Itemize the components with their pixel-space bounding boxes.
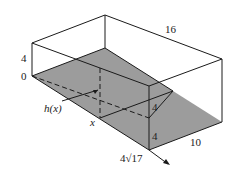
label-left-height: 4 [21, 52, 27, 64]
label-top-length: 16 [165, 23, 177, 35]
label-right-width: 10 [190, 136, 202, 148]
label-diagonal-length: 4√17 [120, 152, 143, 164]
label-function: h(x) [44, 102, 62, 115]
label-variable: x [89, 116, 95, 128]
label-front-upper: 4 [152, 101, 158, 113]
shaded-plane [32, 48, 222, 150]
label-front-lower: 4 [152, 130, 158, 142]
box-diagram: 16 4 0 h(x) x 4 4 10 4√17 [0, 0, 235, 174]
diagonal-arrowhead [163, 159, 170, 165]
label-origin: 0 [21, 70, 27, 82]
